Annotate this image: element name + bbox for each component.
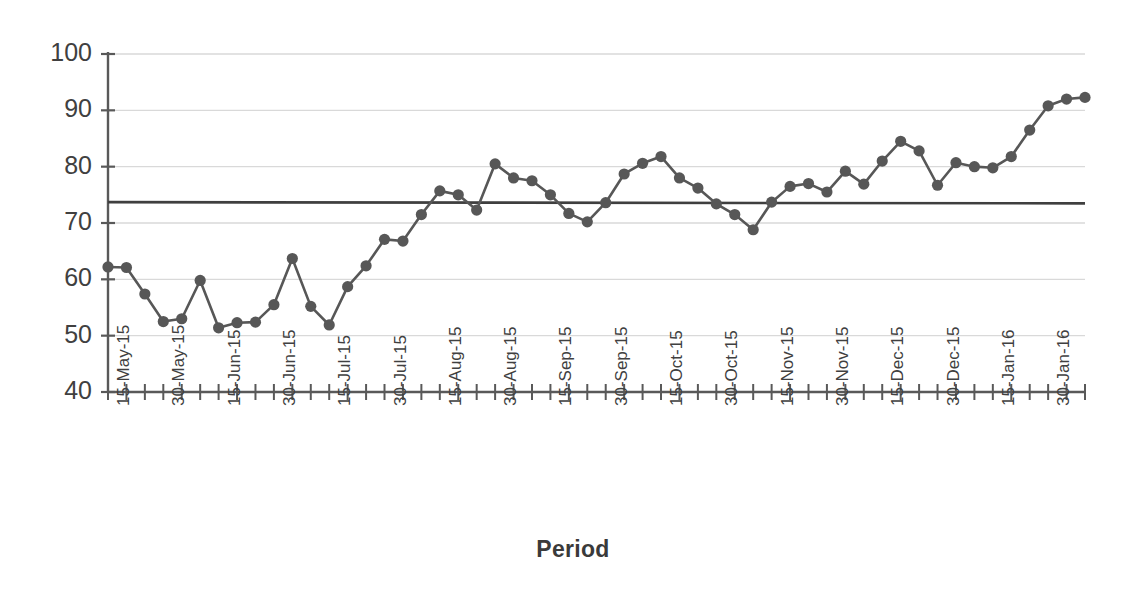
y-axis-tick-label: 90: [32, 96, 92, 121]
x-axis-tick-label: 30-Dec-15: [945, 327, 962, 406]
x-axis-tick-label: 30-Nov-15: [834, 327, 851, 406]
x-axis-tick-label: 15-Oct-15: [668, 330, 685, 406]
y-axis-tick-label: 40: [32, 378, 92, 403]
x-axis-tick-label: 15-May-15: [115, 325, 132, 406]
x-axis-tick-label: 15-Sep-15: [557, 327, 574, 406]
axes: [101, 52, 1085, 392]
x-axis-tick-label: 30-Aug-15: [502, 327, 519, 406]
y-axis-tick-label: 70: [32, 209, 92, 234]
gridlines: [108, 54, 1085, 336]
x-axis-tick-label: 15-Nov-15: [779, 327, 796, 406]
reference-line: [108, 202, 1085, 203]
y-axis-tick-label: 100: [32, 40, 92, 65]
y-axis-tick-label: 50: [32, 322, 92, 347]
x-axis-tick-label: 30-Jan-16: [1055, 329, 1072, 406]
x-axis-title: Period: [0, 536, 1146, 563]
series-line: [108, 97, 1085, 327]
x-axis-tick-label: 30-May-15: [170, 325, 187, 406]
x-axis-tick-label: 30-Oct-15: [723, 330, 740, 406]
x-axis-tick-label: 15-Aug-15: [447, 327, 464, 406]
x-axis-tick-label: 15-Jan-16: [1000, 329, 1017, 406]
x-axis-tick-label: 15-Jun-15: [226, 329, 243, 406]
y-axis-tick-label: 60: [32, 265, 92, 290]
x-axis-tick-label: 30-Sep-15: [613, 327, 630, 406]
line-chart-plot: [0, 0, 1146, 615]
chart-root: 405060708090100 15-May-1530-May-1515-Jun…: [0, 0, 1146, 615]
x-axis-tick-label: 15-Dec-15: [889, 327, 906, 406]
x-axis-tick-label: 30-Jul-15: [392, 335, 409, 406]
x-axis-tick-label: 15-Jul-15: [336, 335, 353, 406]
x-axis-tick-label: 30-Jun-15: [281, 329, 298, 406]
y-axis-tick-label: 80: [32, 153, 92, 178]
